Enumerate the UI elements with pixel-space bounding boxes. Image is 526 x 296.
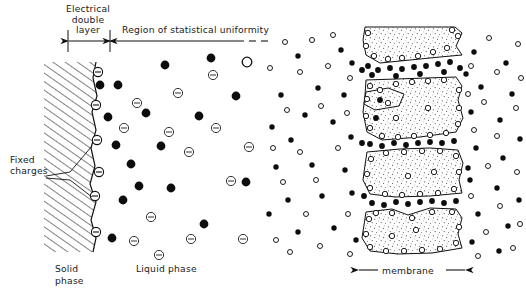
channel-cation [369, 72, 375, 78]
channel-cation [359, 140, 365, 146]
bulk-anion [472, 128, 477, 133]
minus-ion [186, 234, 195, 243]
bulk-cation [494, 185, 499, 190]
bound-anion [383, 248, 388, 253]
fixed-charge [93, 67, 102, 76]
solid-phase-hatch [44, 62, 97, 252]
bulk-cation [295, 53, 300, 58]
bound-anion [451, 186, 456, 191]
channel-cation [379, 143, 385, 149]
channel-cation [411, 64, 417, 70]
bulk-anion [288, 250, 293, 255]
left-solution-group [266, 33, 358, 257]
bound-anion [453, 240, 458, 245]
bound-anion [373, 210, 378, 215]
bound-anion [455, 121, 460, 126]
bulk-anion [495, 134, 500, 139]
bulk-anion [519, 76, 524, 81]
channel-cation [361, 193, 367, 199]
bound-anion [393, 81, 398, 86]
figure-root: Electrical double layer Region of statis… [0, 0, 526, 296]
bulk-cation [465, 165, 470, 170]
bulk-anion [516, 42, 521, 47]
bound-anion [379, 133, 384, 138]
bound-anion [435, 190, 440, 195]
minus-ion [211, 123, 220, 132]
minus-ion [119, 123, 128, 132]
bulk-anion [345, 111, 350, 116]
filled-ion [114, 81, 123, 90]
channel-cation [415, 140, 421, 146]
bulk-cation [348, 134, 353, 139]
channel-cation [441, 69, 447, 75]
bulk-cation [353, 237, 358, 242]
channel-cation [393, 199, 399, 205]
membrane-panel: membrane [266, 27, 523, 276]
filled-ion [135, 182, 144, 191]
channel-cation [447, 59, 453, 65]
bound-anion [441, 77, 446, 82]
membrane-label-annotation: membrane [359, 265, 465, 276]
channel-cation [429, 198, 435, 204]
fixed-charge [94, 167, 103, 176]
bound-anion [449, 209, 454, 214]
minus-ion [184, 147, 193, 156]
diagram-canvas: Electrical double layer Region of statis… [0, 0, 526, 296]
minus-ion [154, 250, 163, 259]
bound-anion [430, 49, 435, 54]
bulk-cation [288, 137, 293, 142]
bulk-anion [331, 33, 336, 38]
bulk-cation [341, 92, 346, 97]
channel-cation [391, 140, 397, 146]
bulk-cation-group-right [463, 49, 522, 253]
filled-ion [104, 113, 113, 122]
bulk-cation [338, 47, 343, 52]
bound-anion [427, 132, 432, 137]
bound-anion [399, 192, 404, 197]
bound-anion [385, 100, 390, 105]
bound-anion [363, 231, 368, 236]
minus-ion [146, 212, 155, 221]
filled-ion [167, 184, 176, 193]
bulk-cation [302, 112, 307, 117]
minus-ion [173, 88, 182, 97]
bulk-anion [514, 106, 519, 111]
bulk-anion [298, 150, 303, 155]
channel-cation [405, 201, 411, 207]
bulk-anion [274, 238, 279, 243]
bound-anion [415, 53, 420, 58]
bulk-cation [315, 85, 320, 90]
bound-anion [367, 83, 372, 88]
bulk-cation [505, 223, 510, 228]
bulk-anion [518, 222, 523, 227]
liquid-filled-ion-group [96, 54, 251, 243]
bound-anion [449, 27, 454, 32]
bulk-cation [309, 162, 314, 167]
channel-cation [457, 65, 463, 71]
bound-anion [419, 247, 424, 252]
bulk-anion [511, 246, 516, 251]
channel-cation [453, 198, 459, 204]
bulk-cation [278, 92, 283, 97]
bound-anion [371, 53, 376, 58]
bulk-cation [509, 91, 514, 96]
bound-anion [425, 78, 430, 83]
bound-anion [456, 105, 461, 110]
membrane-label: membrane [382, 265, 434, 276]
bulk-anion [466, 92, 471, 97]
bulk-cation [349, 190, 354, 195]
filled-ion [142, 109, 151, 118]
bound-anion [399, 55, 404, 60]
bulk-cation [269, 124, 274, 129]
bulk-anion [298, 70, 303, 75]
bulk-anion [318, 244, 323, 249]
bound-anion [413, 227, 418, 232]
channel-cation [399, 66, 405, 72]
channel-cation [417, 199, 423, 205]
bulk-cation [342, 167, 347, 172]
bulk-anion [515, 170, 520, 175]
bound-anion [367, 244, 372, 249]
bulk-cation [349, 60, 354, 65]
bulk-cation-group-left [266, 47, 358, 242]
filled-ion [207, 54, 216, 63]
